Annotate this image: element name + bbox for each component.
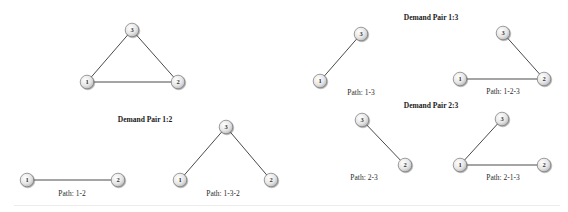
nodes-layer <box>20 23 551 187</box>
path-label-1-3: Path: 1-3 <box>347 88 374 97</box>
node-label-pair12-b-1: 1 <box>173 173 187 187</box>
node-label-pair13-a-3: 3 <box>354 27 368 41</box>
node-label-pair13-b-3: 3 <box>496 26 510 40</box>
node-label-pair12-a-1: 1 <box>20 173 34 187</box>
node-label-pair23-b-1: 1 <box>453 158 467 172</box>
node-label-full-1: 1 <box>80 75 94 89</box>
node-label-pair13-b-1: 1 <box>453 72 467 86</box>
title-demand-pair-2-3: Demand Pair 2:3 <box>404 101 458 110</box>
path-label-1-2: Path: 1-2 <box>58 189 85 198</box>
node-label-pair23-b-3: 3 <box>495 112 509 126</box>
title-demand-pair-1-2: Demand Pair 1:2 <box>118 115 172 124</box>
path-label-2-3: Path: 2-3 <box>350 173 377 182</box>
node-label-full-3: 3 <box>125 23 139 37</box>
node-label-pair12-b-3: 3 <box>219 120 233 134</box>
node-label-pair13-b-2: 2 <box>537 72 551 86</box>
title-demand-pair-1-3: Demand Pair 1:3 <box>404 13 458 22</box>
node-label-pair23-a-2: 2 <box>398 158 412 172</box>
path-label-1-2-3: Path: 1-2-3 <box>486 87 520 96</box>
node-label-pair12-a-2: 2 <box>111 173 125 187</box>
path-label-2-1-3: Path: 2-1-3 <box>486 173 520 182</box>
bottom-divider <box>14 205 560 206</box>
node-label-full-2: 2 <box>171 75 185 89</box>
path-label-1-3-2: Path: 1-3-2 <box>206 189 240 198</box>
node-label-pair23-b-2: 2 <box>537 158 551 172</box>
node-label-pair13-a-1: 1 <box>313 74 327 88</box>
diagram-canvas <box>0 0 568 212</box>
node-label-pair12-b-2: 2 <box>264 173 278 187</box>
node-label-pair23-a-3: 3 <box>355 113 369 127</box>
